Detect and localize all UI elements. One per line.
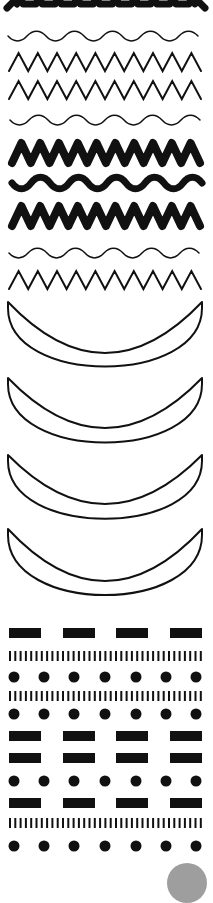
tick-bar (179, 651, 181, 661)
dash-block (63, 628, 95, 638)
tick-bar (110, 691, 112, 701)
dot (9, 776, 20, 787)
tick-bar (173, 691, 175, 701)
tick-bar (200, 651, 202, 661)
tick-bar (73, 818, 75, 828)
dot (131, 776, 142, 787)
tick-bar (168, 651, 170, 661)
floating-action-button[interactable] (167, 863, 207, 903)
dot (131, 841, 142, 852)
tick-bar (195, 651, 197, 661)
tick-bar (157, 651, 159, 661)
tick-bar (83, 691, 85, 701)
tick-bar (200, 691, 202, 701)
dash-block (63, 731, 95, 741)
tick-bar (94, 691, 96, 701)
tick-bar (83, 651, 85, 661)
tick-bar (41, 818, 43, 828)
tick-bar (9, 691, 11, 701)
tick-bar (20, 691, 22, 701)
tick-bar (36, 691, 38, 701)
tick-bar (173, 651, 175, 661)
tick-bar (189, 691, 191, 701)
tick-bar (189, 818, 191, 828)
tick-bar (41, 651, 43, 661)
dash-block (116, 798, 148, 808)
tick-bar (67, 818, 69, 828)
tick-bar (51, 651, 53, 661)
dash-block (9, 628, 41, 638)
tick-bar (94, 651, 96, 661)
tick-bar (136, 651, 138, 661)
dash-block (116, 731, 148, 741)
tick-bar (99, 818, 101, 828)
tick-bar (168, 818, 170, 828)
tick-bar (126, 818, 128, 828)
tick-bar (51, 818, 53, 828)
tick-bar (120, 651, 122, 661)
tick-bar (157, 818, 159, 828)
dash-block (116, 753, 148, 763)
tick-bar (62, 691, 64, 701)
tick-bar (46, 691, 48, 701)
tick-bar (57, 818, 59, 828)
thick-zigzag-cut-line (7, 0, 205, 8)
tick-bar (9, 818, 11, 828)
tick-bar (195, 818, 197, 828)
tick-bar (163, 651, 165, 661)
dot (69, 776, 80, 787)
tick-bar (20, 651, 22, 661)
tick-bar (25, 818, 27, 828)
tick-bar (104, 651, 106, 661)
tick-bar (163, 691, 165, 701)
thin-zigzag-1-line (9, 53, 201, 71)
tick-bar (126, 651, 128, 661)
thick-zigzag-1-line (12, 143, 200, 163)
tick-bar (131, 818, 133, 828)
thick-zigzag-2-line (12, 206, 200, 226)
tick-bar (147, 818, 149, 828)
tick-bar (89, 651, 91, 661)
dash-block (170, 753, 202, 763)
thick-wave-line (12, 177, 202, 189)
tick-bar (126, 691, 128, 701)
tick-bar (142, 818, 144, 828)
dot (191, 672, 202, 683)
tick-bar (195, 691, 197, 701)
dash-block (9, 798, 41, 808)
tick-bar (89, 818, 91, 828)
dash-block (9, 753, 41, 763)
dot (131, 672, 142, 683)
dash-block (170, 731, 202, 741)
tick-bar (46, 651, 48, 661)
tick-bar (20, 818, 22, 828)
tick-bar (36, 651, 38, 661)
tick-bar (184, 818, 186, 828)
tick-bar (78, 818, 80, 828)
tick-bar (94, 818, 96, 828)
tick-bar (115, 651, 117, 661)
dot (39, 841, 50, 852)
tick-bar (142, 651, 144, 661)
tick-bar (14, 691, 16, 701)
tick-bar (99, 691, 101, 701)
tick-bar (57, 691, 59, 701)
tick-bar (14, 818, 16, 828)
dot (100, 841, 111, 852)
tick-bar (51, 691, 53, 701)
tick-bar (104, 818, 106, 828)
tick-bar (120, 691, 122, 701)
dot (161, 776, 172, 787)
dash-block (170, 798, 202, 808)
tick-bar (147, 691, 149, 701)
dot (39, 709, 50, 720)
dot (39, 672, 50, 683)
dot (69, 709, 80, 720)
tick-bar (25, 691, 27, 701)
crescent-4 (8, 529, 202, 595)
tick-bar (157, 691, 159, 701)
tick-bar (179, 818, 181, 828)
tick-bar (78, 691, 80, 701)
dash-block (63, 798, 95, 808)
